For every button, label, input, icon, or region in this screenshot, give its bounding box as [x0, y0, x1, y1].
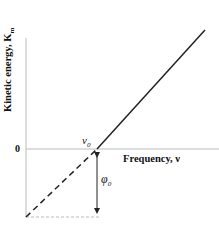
photoelectric-plot — [0, 0, 219, 229]
y-axis-label: Kinetic energy, Km — [2, 28, 16, 112]
measured-line — [97, 30, 205, 149]
threshold-frequency-label: ν0 — [82, 134, 90, 149]
extrapolated-dashed-line — [26, 149, 97, 217]
zero-label: 0 — [15, 143, 20, 154]
work-function-label: φ0 — [101, 172, 111, 188]
x-axis-label: Frequency, ν — [123, 153, 180, 164]
